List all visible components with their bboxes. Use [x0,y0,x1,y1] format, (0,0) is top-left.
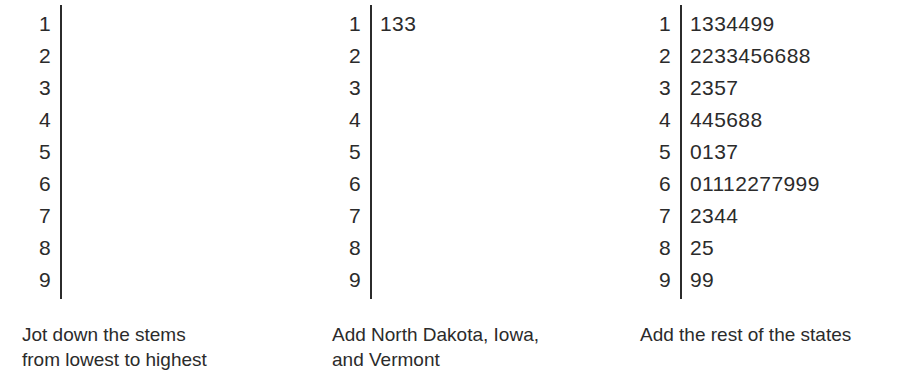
stem-leaf-panel-1: 1 2 3 4 5 [0,0,300,384]
stem-value: 2 [14,40,60,72]
caption-line: Add the rest of the states [640,322,903,347]
stem-leaf-rows-2: 1 133 2 3 4 5 [324,8,624,296]
stem-leaf-row: 4 [324,104,624,136]
stem-leaf-panel-2: 1 133 2 3 4 5 [310,0,610,384]
stem-value: 4 [14,104,60,136]
stem-leaf-rows-3: 1 1334499 2 2233456688 3 2357 4 445688 5 [634,8,903,296]
panel-caption: Jot down the stems from lowest to highes… [22,322,292,372]
stem-value: 5 [14,136,60,168]
stem-leaf-plot-3: 1 1334499 2 2233456688 3 2357 4 445688 5 [620,8,903,296]
stem-leaf-row: 8 [14,232,314,264]
stem-leaf-row: 3 [14,72,314,104]
stem-value: 8 [324,232,370,264]
stem-leaf-row: 1 1334499 [634,8,903,40]
leaf-values: 99 [680,264,903,296]
leaf-values: 2344 [680,200,903,232]
stem-leaf-plot-1: 1 2 3 4 5 [0,8,314,296]
stem-leaf-row: 2 [14,40,314,72]
stem-value: 1 [634,8,680,40]
leaf-values: 133 [370,8,624,40]
stem-and-leaf-figure: 1 2 3 4 5 [0,0,903,384]
stem-leaf-row: 5 [324,136,624,168]
stem-leaf-row: 4 [14,104,314,136]
stem-value: 2 [634,40,680,72]
stem-value: 9 [324,264,370,296]
caption-line: Add North Dakota, Iowa, [332,322,602,347]
stem-value: 8 [14,232,60,264]
stem-leaf-row: 6 [324,168,624,200]
stem-leaf-row: 6 [14,168,314,200]
leaf-values: 1334499 [680,8,903,40]
stem-value: 3 [634,72,680,104]
stem-leaf-row: 5 [14,136,314,168]
stem-value: 3 [324,72,370,104]
stem-leaf-row: 8 25 [634,232,903,264]
stem-value: 6 [14,168,60,200]
stem-leaf-row: 3 [324,72,624,104]
stem-value: 6 [324,168,370,200]
leaf-values: 0137 [680,136,903,168]
stem-leaf-row: 2 2233456688 [634,40,903,72]
stem-value: 1 [324,8,370,40]
stem-leaf-row: 6 01112277999 [634,168,903,200]
stem-leaf-row: 3 2357 [634,72,903,104]
stem-leaf-row: 9 [14,264,314,296]
stem-leaf-divider-line [370,5,372,299]
stem-value: 7 [324,200,370,232]
stem-leaf-row: 9 99 [634,264,903,296]
stem-value: 4 [634,104,680,136]
stem-leaf-row: 7 2344 [634,200,903,232]
stem-leaf-row: 7 [324,200,624,232]
caption-line: Jot down the stems [22,322,292,347]
stem-leaf-row: 8 [324,232,624,264]
stem-value: 6 [634,168,680,200]
leaf-values: 2233456688 [680,40,903,72]
leaf-values: 2357 [680,72,903,104]
stem-value: 4 [324,104,370,136]
stem-value: 9 [634,264,680,296]
panel-caption: Add North Dakota, Iowa, and Vermont [332,322,602,372]
stem-value: 8 [634,232,680,264]
leaf-values: 445688 [680,104,903,136]
stem-leaf-row: 5 0137 [634,136,903,168]
stem-leaf-row: 2 [324,40,624,72]
leaf-values: 01112277999 [680,168,903,200]
leaf-values: 25 [680,232,903,264]
stem-leaf-rows-1: 1 2 3 4 5 [14,8,314,296]
caption-line: and Vermont [332,347,602,372]
stem-value: 7 [634,200,680,232]
stem-value: 5 [324,136,370,168]
stem-leaf-divider-line [680,5,682,299]
stem-leaf-row: 4 445688 [634,104,903,136]
stem-leaf-row: 9 [324,264,624,296]
stem-value: 1 [14,8,60,40]
stem-leaf-plot-2: 1 133 2 3 4 5 [310,8,624,296]
stem-value: 9 [14,264,60,296]
stem-leaf-row: 1 133 [324,8,624,40]
stem-leaf-row: 1 [14,8,314,40]
stem-value: 7 [14,200,60,232]
stem-value: 2 [324,40,370,72]
caption-line: from lowest to highest [22,347,292,372]
stem-value: 3 [14,72,60,104]
stem-leaf-panel-3: 1 1334499 2 2233456688 3 2357 4 445688 5 [620,0,903,384]
stem-value: 5 [634,136,680,168]
stem-leaf-row: 7 [14,200,314,232]
panel-caption: Add the rest of the states [640,322,903,347]
stem-leaf-divider-line [60,5,62,299]
